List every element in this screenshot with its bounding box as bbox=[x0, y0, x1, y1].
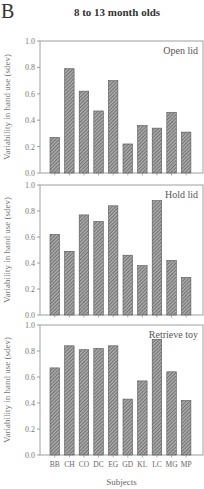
bar-mg bbox=[167, 112, 177, 173]
y-tick-label: 0.2 bbox=[25, 425, 35, 434]
y-tick-label: 0.4 bbox=[25, 116, 35, 125]
x-tick-label: CO bbox=[79, 460, 90, 469]
bar-ch bbox=[65, 251, 75, 315]
bar-gd bbox=[123, 144, 133, 173]
chart-canvas: 0.00.20.40.60.81.0Variability in hand us… bbox=[0, 0, 204, 489]
y-tick-label: 0.2 bbox=[25, 143, 35, 152]
bar-co bbox=[79, 91, 89, 173]
bar-mp bbox=[181, 400, 191, 455]
y-tick-label: 0.0 bbox=[25, 169, 35, 178]
bar-kl bbox=[138, 381, 148, 455]
bar-ch bbox=[65, 69, 75, 173]
y-tick-label: 0.4 bbox=[25, 399, 35, 408]
y-tick-label: 0.6 bbox=[25, 373, 35, 382]
y-tick-label: 0.0 bbox=[25, 311, 35, 320]
x-tick-label: BB bbox=[50, 460, 60, 469]
bar-gd bbox=[123, 255, 133, 315]
y-tick-label: 0.8 bbox=[25, 63, 35, 72]
bar-bb bbox=[50, 137, 60, 173]
bar-ch bbox=[65, 346, 75, 455]
bar-lc bbox=[152, 128, 162, 173]
panel-label: Open lid bbox=[163, 45, 198, 56]
panel-label: Retrieve toy bbox=[149, 329, 198, 340]
bar-mp bbox=[181, 277, 191, 315]
bar-kl bbox=[138, 266, 148, 315]
y-tick-label: 0.6 bbox=[25, 90, 35, 99]
x-tick-label: KL bbox=[137, 460, 147, 469]
x-axis-label: Subjects bbox=[106, 477, 137, 487]
bar-dc bbox=[94, 221, 104, 315]
y-tick-label: 1.0 bbox=[25, 181, 35, 190]
x-tick-label: DC bbox=[93, 460, 103, 469]
bar-dc bbox=[94, 111, 104, 173]
y-tick-label: 0.8 bbox=[25, 207, 35, 216]
x-tick-label: MG bbox=[166, 460, 179, 469]
bar-mp bbox=[181, 132, 191, 173]
bar-eg bbox=[108, 346, 118, 455]
bar-co bbox=[79, 350, 89, 455]
panel-label: Hold lid bbox=[165, 189, 198, 200]
y-axis-label: Variability in hand use (sdev) bbox=[2, 197, 12, 303]
x-tick-label: MP bbox=[181, 460, 192, 469]
x-tick-label: EG bbox=[108, 460, 119, 469]
bar-dc bbox=[94, 348, 104, 455]
y-axis-label: Variability in hand use (sdev) bbox=[2, 54, 12, 160]
bar-eg bbox=[108, 206, 118, 315]
y-axis-label: Variability in hand use (sdev) bbox=[2, 337, 12, 443]
y-tick-label: 0.2 bbox=[25, 285, 35, 294]
y-tick-label: 0.0 bbox=[25, 451, 35, 460]
y-tick-label: 1.0 bbox=[25, 321, 35, 330]
bar-lc bbox=[152, 201, 162, 315]
bar-mg bbox=[167, 260, 177, 315]
bar-gd bbox=[123, 399, 133, 455]
x-tick-label: LC bbox=[152, 460, 162, 469]
y-tick-label: 0.6 bbox=[25, 233, 35, 242]
bar-mg bbox=[167, 372, 177, 455]
bar-eg bbox=[108, 81, 118, 173]
y-tick-label: 0.8 bbox=[25, 347, 35, 356]
y-tick-label: 1.0 bbox=[25, 37, 35, 46]
bar-bb bbox=[50, 368, 60, 455]
y-tick-label: 0.4 bbox=[25, 259, 35, 268]
bar-lc bbox=[152, 339, 162, 455]
bar-kl bbox=[138, 125, 148, 173]
x-tick-label: CH bbox=[64, 460, 75, 469]
bar-bb bbox=[50, 234, 60, 315]
x-tick-label: GD bbox=[122, 460, 133, 469]
bar-co bbox=[79, 215, 89, 315]
